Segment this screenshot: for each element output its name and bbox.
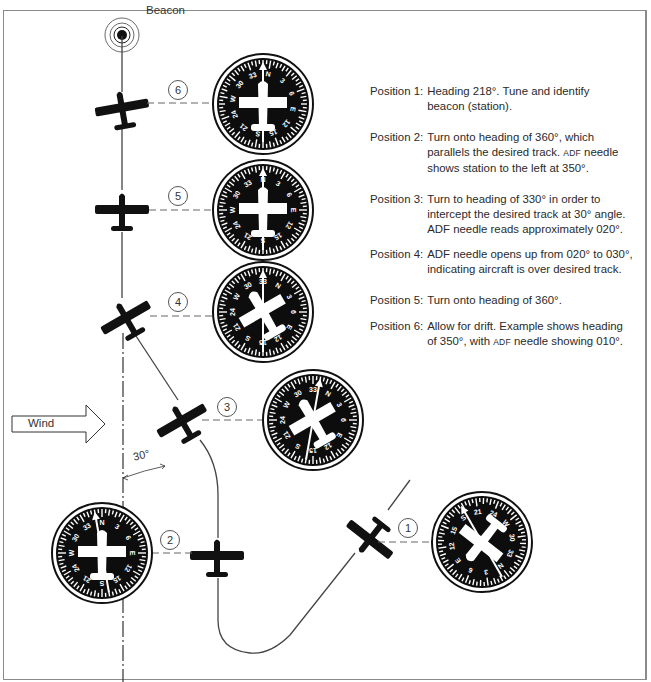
description-line: intercept the desired track at 30° angle…	[427, 208, 625, 220]
wind-arrow-icon	[12, 405, 105, 443]
position-label: Position 2:	[370, 130, 427, 176]
description-line: beacon (station).	[427, 100, 512, 112]
description-position-5: Position 5: Turn onto heading of 360°.	[370, 293, 562, 308]
position-marker-2: 2	[160, 530, 180, 550]
flight-path	[218, 553, 355, 653]
airplane-icon-position-5	[95, 194, 149, 232]
position-label: Position 4:	[370, 247, 427, 277]
airplane-icon-position-3	[150, 393, 216, 452]
airplane-icon-position-4	[94, 290, 160, 349]
adf-abbrev: ADF	[563, 148, 581, 158]
description-line: shows station to the left at 350°.	[427, 162, 589, 174]
description-line: parallels the desired track.	[427, 146, 563, 158]
description-line: Turn to heading of 330° in order to	[427, 193, 600, 205]
adf-dial-position-4	[203, 252, 323, 372]
description-line: needle	[581, 146, 618, 158]
description-position-3: Position 3: Turn to heading of 330° in o…	[370, 192, 626, 237]
adf-dial-position-2	[52, 503, 152, 603]
position-marker-3: 3	[217, 397, 237, 417]
position-marker-6: 6	[168, 80, 188, 100]
description-line: Turn onto heading of 360°, which	[427, 131, 594, 143]
beacon-label: Beacon	[146, 4, 185, 16]
position-marker-5: 5	[168, 186, 188, 206]
airplane-icon-position-2	[190, 540, 244, 578]
position-marker-4: 4	[168, 292, 188, 312]
description-line: of 350°, with	[427, 335, 493, 347]
description-line: needle showing 010°.	[511, 335, 623, 347]
position-label: Position 1:	[370, 84, 427, 114]
wind-label: Wind	[28, 417, 54, 429]
adf-abbrev: ADF	[493, 337, 511, 347]
adf-dial-position-3	[253, 360, 373, 480]
airplane-icon-position-1	[339, 506, 405, 569]
description-line: Heading 218°. Tune and identify	[427, 85, 589, 97]
description-position-1: Position 1: Heading 218°. Tune and ident…	[370, 84, 589, 114]
adf-dial-position-6	[212, 53, 314, 155]
description-line: indicating aircraft is over desired trac…	[427, 263, 621, 275]
position-marker-1: 1	[398, 518, 418, 538]
description-position-4: Position 4: ADF needle opens up from 020…	[370, 247, 633, 277]
description-line: Turn onto heading of 360°.	[427, 294, 562, 306]
description-line: Allow for drift. Example shows heading	[427, 320, 623, 332]
angle-arc	[123, 466, 165, 478]
airplane-icon-position-6	[93, 87, 153, 133]
description-position-6: Position 6: Allow for drift. Example sho…	[370, 319, 623, 350]
adf-dial-position-5	[213, 160, 313, 260]
description-position-2: Position 2: Turn onto heading of 360°, w…	[370, 130, 618, 176]
description-line: ADF needle reads approximately 020°.	[427, 223, 623, 235]
position-label: Position 6:	[370, 319, 427, 350]
position-label: Position 3:	[370, 192, 427, 237]
position-label: Position 5:	[370, 293, 427, 308]
description-line: ADF needle opens up from 020° to 030°,	[427, 248, 632, 260]
adf-dial-position-1	[420, 480, 544, 604]
